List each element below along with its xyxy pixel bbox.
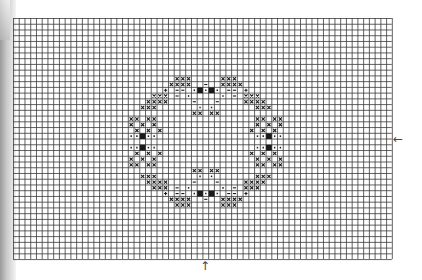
stitch-cross xyxy=(158,129,161,132)
stitch-cross xyxy=(221,77,224,80)
stitch-cross xyxy=(256,100,259,103)
stitch-cross xyxy=(135,129,138,132)
stitch-cross xyxy=(273,152,276,155)
stitch-cross xyxy=(267,106,270,109)
chart-grid xyxy=(13,18,393,261)
stitch-cross xyxy=(130,158,133,161)
stitch-solid xyxy=(140,133,146,139)
stitch-cross xyxy=(279,158,282,161)
stitch-solid xyxy=(197,87,203,93)
stitch-cross xyxy=(262,117,265,120)
stitch-cross xyxy=(135,163,138,166)
stitch-cross xyxy=(176,198,179,201)
stitch-cross xyxy=(164,181,167,184)
stitch-cross xyxy=(141,106,144,109)
stitch-cross xyxy=(262,175,265,178)
stitch-cross xyxy=(262,100,265,103)
stitch-cross xyxy=(273,163,276,166)
stitch-solid xyxy=(266,145,272,151)
stitch-cross xyxy=(244,100,247,103)
stitch-cross xyxy=(262,152,265,155)
stitch-cross xyxy=(147,152,150,155)
stitch-cross xyxy=(187,83,190,86)
center-row-arrow-icon: ← xyxy=(393,133,403,145)
stitch-cross xyxy=(256,123,259,126)
stitch-solid xyxy=(266,133,272,139)
stitch-cross xyxy=(262,181,265,184)
stitch-cross xyxy=(262,106,265,109)
stitch-cross xyxy=(147,175,150,178)
stitch-solid xyxy=(209,87,215,93)
stitch-cross xyxy=(250,186,253,189)
stitch-cross xyxy=(256,163,259,166)
page-corner-shadow xyxy=(0,0,10,40)
stitch-cross xyxy=(227,198,230,201)
stitch-cross xyxy=(153,94,156,97)
stitch-cross xyxy=(153,106,156,109)
stitch-plus xyxy=(164,192,167,195)
stitch-cross xyxy=(176,77,179,80)
stitch-cross xyxy=(267,158,270,161)
stitch-cross xyxy=(147,163,150,166)
stitch-cross xyxy=(256,117,259,120)
stitch-cross xyxy=(141,158,144,161)
stitch-cross xyxy=(227,77,230,80)
stitch-cross xyxy=(153,175,156,178)
stitch-cross xyxy=(147,100,150,103)
stitch-cross xyxy=(198,169,201,172)
stitch-cross xyxy=(262,129,265,132)
stitch-cross xyxy=(130,117,133,120)
stitch-cross xyxy=(227,203,230,206)
stitch-cross xyxy=(262,163,265,166)
center-column-arrow-icon: ↑ xyxy=(200,260,210,272)
stitch-cross xyxy=(187,198,190,201)
stitch-cross xyxy=(147,106,150,109)
stitch-cross xyxy=(279,123,282,126)
stitch-cross xyxy=(158,186,161,189)
stitch-cross xyxy=(250,152,253,155)
stitch-cross xyxy=(198,112,201,115)
stitch-cross xyxy=(141,123,144,126)
stitch-cross xyxy=(158,94,161,97)
stitch-cross xyxy=(176,83,179,86)
stitch-cross xyxy=(239,198,242,201)
stitch-plus xyxy=(244,89,247,92)
stitch-cross xyxy=(250,94,253,97)
stitch-cross xyxy=(210,112,213,115)
stitch-cross xyxy=(153,181,156,184)
stitch-cross xyxy=(158,152,161,155)
stitch-cross xyxy=(250,100,253,103)
stitch-cross xyxy=(244,181,247,184)
stitch-cross xyxy=(130,163,133,166)
stitch-cross xyxy=(181,203,184,206)
stitch-cross xyxy=(147,117,150,120)
stitch-cross xyxy=(147,181,150,184)
stitch-cross xyxy=(233,203,236,206)
stitch-cross xyxy=(158,100,161,103)
stitch-cross xyxy=(164,100,167,103)
stitch-cross xyxy=(147,129,150,132)
stitch-cross xyxy=(279,163,282,166)
stitch-cross xyxy=(141,175,144,178)
stitch-cross xyxy=(181,198,184,201)
stitch-cross xyxy=(187,77,190,80)
stitch-cross xyxy=(210,169,213,172)
stitch-cross xyxy=(216,112,219,115)
stitch-cross xyxy=(244,186,247,189)
stitch-cross xyxy=(181,77,184,80)
stitch-cross xyxy=(244,94,247,97)
stitch-solid xyxy=(209,191,215,197)
stitch-cross xyxy=(130,123,133,126)
stitch-cross xyxy=(233,198,236,201)
stitch-cross xyxy=(181,83,184,86)
stitch-cross xyxy=(153,117,156,120)
stitch-cross xyxy=(256,175,259,178)
stitch-cross xyxy=(135,152,138,155)
stitch-cross xyxy=(256,106,259,109)
stitch-cross xyxy=(250,129,253,132)
stitch-cross xyxy=(256,181,259,184)
stitch-cross xyxy=(216,169,219,172)
stitch-cross xyxy=(221,203,224,206)
stitch-cross xyxy=(233,83,236,86)
stitch-plus xyxy=(164,89,167,92)
